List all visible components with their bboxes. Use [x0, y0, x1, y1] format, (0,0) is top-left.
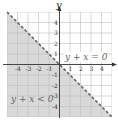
- svg-text:-1: -1: [52, 71, 58, 78]
- svg-text:3: 3: [90, 65, 94, 72]
- svg-text:-2: -2: [52, 82, 58, 89]
- svg-text:-2: -2: [36, 65, 42, 72]
- region-inequality-label: y + x < 0: [10, 94, 54, 104]
- svg-text:-3: -3: [26, 65, 32, 72]
- svg-text:2: 2: [54, 40, 58, 47]
- inequality-graph: y -4 -3 -2 -1 1 2 3 4 4 3 2 1 -1 -2 -3 -…: [0, 0, 118, 120]
- svg-text:4: 4: [100, 65, 104, 72]
- line-equation-label: y + x = 0: [64, 52, 108, 62]
- svg-text:1: 1: [54, 50, 58, 57]
- x-axis-arrow-icon: [112, 63, 117, 67]
- svg-text:4: 4: [54, 19, 58, 26]
- svg-text:-4: -4: [15, 65, 21, 72]
- svg-text:2: 2: [79, 65, 83, 72]
- svg-text:3: 3: [54, 29, 58, 36]
- svg-text:1: 1: [69, 65, 73, 72]
- y-axis-label: y: [55, 0, 62, 10]
